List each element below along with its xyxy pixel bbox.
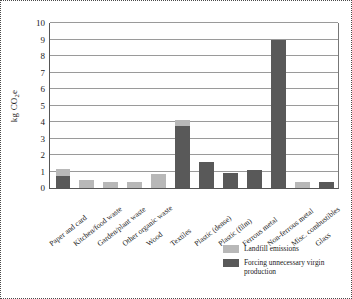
- y-axis-title-subscript: 2: [13, 94, 20, 97]
- bar-slot[interactable]: [314, 23, 338, 188]
- bars-group: [51, 23, 338, 188]
- y-axis-tick-label: 5: [41, 101, 46, 110]
- y-axis-title-prefix: kg CO: [9, 97, 19, 122]
- bar-stack[interactable]: [175, 120, 190, 188]
- y-axis-tick-label: 10: [36, 19, 45, 28]
- bar-stack[interactable]: [319, 182, 334, 188]
- bar-slot[interactable]: [266, 23, 290, 188]
- bar-segment-landfill-emissions[interactable]: [103, 182, 118, 188]
- legend-label: Forcing unnecessary virgin production: [244, 258, 347, 276]
- y-axis-tick-label: 2: [41, 151, 46, 160]
- bar-stack[interactable]: [127, 182, 142, 188]
- bar-stack[interactable]: [79, 180, 94, 188]
- legend-swatch: [223, 245, 239, 253]
- bar-segment-virgin-production[interactable]: [175, 126, 190, 188]
- y-axis-tick-label: 3: [41, 134, 46, 143]
- bar-stack[interactable]: [295, 182, 310, 188]
- bar-slot[interactable]: [99, 23, 123, 188]
- y-axis-tick-label: 6: [41, 85, 46, 94]
- bar-stack[interactable]: [151, 174, 166, 188]
- bar-slot[interactable]: [290, 23, 314, 188]
- legend-label: Landfill emissions: [244, 244, 299, 253]
- bar-slot[interactable]: [195, 23, 219, 188]
- bar-segment-virgin-production[interactable]: [319, 182, 334, 188]
- bar-slot[interactable]: [171, 23, 195, 188]
- bar-stack[interactable]: [103, 182, 118, 188]
- bar-stack[interactable]: [247, 170, 262, 188]
- bar-slot[interactable]: [242, 23, 266, 188]
- bar-slot[interactable]: [51, 23, 75, 188]
- bar-stack[interactable]: [56, 169, 71, 188]
- bar-stack[interactable]: [223, 173, 238, 188]
- bar-segment-virgin-production[interactable]: [271, 40, 286, 188]
- y-axis-tick-label: 1: [41, 167, 46, 176]
- y-axis-title: kg CO2e: [7, 23, 21, 189]
- legend-item[interactable]: Landfill emissions: [223, 244, 347, 253]
- y-axis-tick-label: 4: [41, 118, 46, 127]
- chart-figure: kg CO2e 012345678910 Paper and cardKitch…: [0, 0, 352, 299]
- bar-slot[interactable]: [123, 23, 147, 188]
- chart-legend: Landfill emissionsForcing unnecessary vi…: [223, 244, 347, 281]
- bar-segment-virgin-production[interactable]: [56, 176, 71, 188]
- bar-slot[interactable]: [147, 23, 171, 188]
- bar-slot[interactable]: [218, 23, 242, 188]
- x-axis-tick-label: Wood: [145, 231, 164, 248]
- legend-item[interactable]: Forcing unnecessary virgin production: [223, 258, 347, 276]
- bar-segment-virgin-production[interactable]: [199, 162, 214, 188]
- x-axis-tick-labels: Paper and cardKitchen/food wasteGarden/p…: [49, 190, 339, 248]
- y-axis-tick-label: 9: [41, 35, 46, 44]
- x-axis-tick-label: Textiles: [169, 227, 193, 248]
- bar-stack[interactable]: [199, 162, 214, 188]
- y-axis-tick-label: 0: [41, 184, 46, 193]
- y-axis-tick-label: 8: [41, 52, 46, 61]
- plot-area: 012345678910: [49, 23, 339, 189]
- bar-segment-virgin-production[interactable]: [247, 170, 262, 188]
- bar-segment-landfill-emissions[interactable]: [151, 174, 166, 188]
- y-axis-tick-label: 7: [41, 68, 46, 77]
- bar-segment-virgin-production[interactable]: [223, 173, 238, 188]
- bar-segment-landfill-emissions[interactable]: [79, 180, 94, 188]
- bar-slot[interactable]: [75, 23, 99, 188]
- bar-segment-landfill-emissions[interactable]: [127, 182, 142, 188]
- bar-segment-landfill-emissions[interactable]: [295, 182, 310, 188]
- bar-segment-landfill-emissions[interactable]: [56, 169, 71, 176]
- legend-swatch: [223, 259, 239, 267]
- bar-stack[interactable]: [271, 40, 286, 188]
